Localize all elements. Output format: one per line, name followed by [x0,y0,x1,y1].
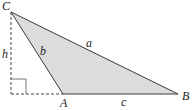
altitude-label-h: h [2,47,8,61]
triangle-diagram: C A B a b c h [0,0,193,110]
right-angle-marker [11,79,26,94]
side-label-a: a [86,36,92,50]
vertex-label-a: A [59,96,68,110]
vertex-label-b: B [182,89,190,103]
side-label-b: b [40,44,46,58]
vertex-label-c: C [2,0,11,13]
side-label-c: c [121,95,127,109]
